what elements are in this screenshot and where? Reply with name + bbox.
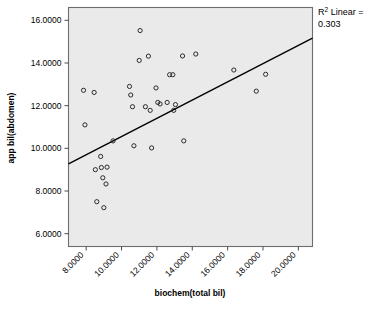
y-tick-label: 12.0000	[31, 101, 62, 111]
y-tick-label: 16.0000	[31, 15, 62, 25]
y-axis-title: app bil(abdomen)	[6, 92, 16, 163]
linear-equals-text: Linear =	[328, 7, 363, 17]
r-squared-value: 0.303	[318, 19, 341, 29]
scatter-plot-figure: 6.00008.000010.000012.000014.000016.0000…	[0, 0, 367, 310]
y-tick-label: 10.0000	[31, 143, 62, 153]
y-tick-label: 8.0000	[36, 186, 62, 196]
plot-area-frame	[69, 8, 313, 247]
x-axis-title: biochem(total bil)	[155, 288, 226, 298]
chart-canvas: 6.00008.000010.000012.000014.000016.0000…	[0, 0, 367, 310]
y-tick-label: 14.0000	[31, 58, 62, 68]
y-tick-label: 6.0000	[36, 229, 62, 239]
